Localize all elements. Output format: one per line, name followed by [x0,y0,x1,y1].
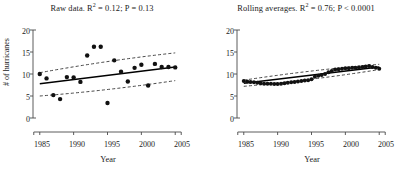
hurricane-trend-figure: Raw data. R2 = 0.12; P = 0.13 # of hurri… [0,0,408,180]
panel-raw-data: Raw data. R2 = 0.12; P = 0.13 # of hurri… [0,0,204,180]
plot-area-rolling-averages [204,0,408,180]
plot-area-raw-data [0,0,204,180]
panel-rolling-averages: Rolling averages. R2 = 0.76; P < 0.0001 … [204,0,408,180]
